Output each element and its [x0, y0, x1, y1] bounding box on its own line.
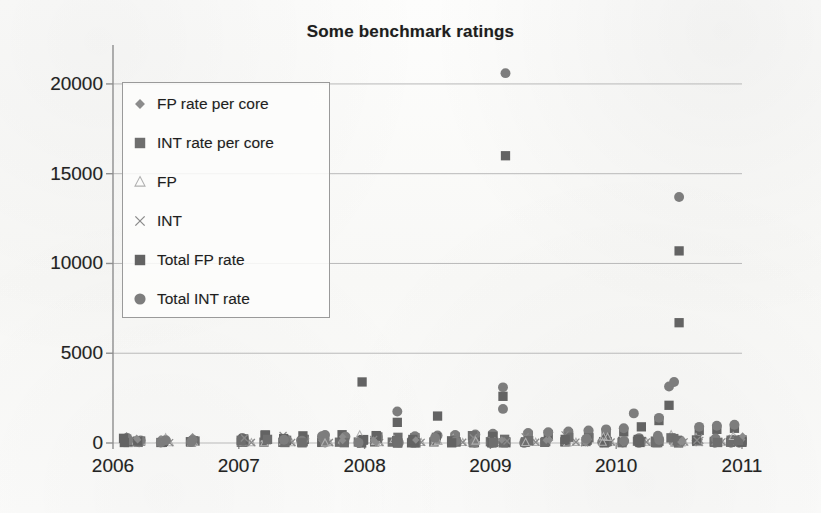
data-point [619, 436, 629, 446]
data-point [653, 431, 663, 441]
data-point [501, 151, 510, 160]
legend-item-total-fp-rate[interactable]: Total FP rate [123, 240, 329, 279]
data-point [713, 438, 722, 447]
data-point [694, 422, 704, 432]
data-point [392, 407, 402, 417]
scatter-chart: Some benchmark ratings 05000100001500020… [0, 0, 821, 513]
data-point [393, 418, 402, 427]
data-point [712, 421, 722, 431]
data-point [501, 68, 511, 78]
data-point [498, 392, 507, 401]
data-point [279, 435, 289, 445]
data-point [393, 438, 402, 447]
x-axis-label: 2010 [576, 455, 656, 477]
data-point [561, 435, 570, 444]
data-point [186, 437, 196, 447]
data-point [629, 408, 639, 418]
data-point [135, 99, 145, 109]
legend-item-total-int-rate[interactable]: Total INT rate [123, 279, 329, 318]
data-point [236, 436, 245, 445]
data-point [135, 216, 144, 225]
data-point [543, 427, 553, 437]
y-axis-label: 0 [17, 432, 103, 454]
data-point [729, 420, 739, 430]
chart-title: Some benchmark ratings [0, 22, 821, 42]
data-point [161, 435, 171, 445]
circle-marker-icon [123, 292, 157, 306]
y-axis-label: 5000 [17, 342, 103, 364]
legend-item-fp-rate-per-core[interactable]: FP rate per core [123, 84, 329, 123]
legend-item-fp[interactable]: FP [123, 162, 329, 201]
square-marker-icon [123, 253, 157, 267]
legend-item-label: Total FP rate [157, 251, 245, 269]
x-axis-label: 2006 [73, 455, 153, 477]
y-axis-label: 15000 [17, 163, 103, 185]
data-point [354, 438, 364, 448]
legend-item-label: INT rate per core [157, 134, 274, 152]
legend-item-label: INT [157, 212, 182, 230]
data-point [669, 377, 679, 387]
square-marker-icon [123, 136, 157, 150]
data-point [433, 411, 442, 420]
data-point [135, 176, 145, 186]
data-point [619, 423, 629, 433]
data-point [447, 438, 456, 447]
legend-item-label: FP [157, 173, 177, 191]
data-point [664, 401, 673, 410]
data-point [637, 422, 646, 431]
y-axis-label: 10000 [17, 252, 103, 274]
data-point [674, 192, 684, 202]
triangle-marker-icon [123, 175, 157, 189]
data-point [489, 438, 498, 447]
diamond-marker-icon [123, 97, 157, 111]
data-point [674, 318, 683, 327]
data-point [601, 424, 611, 434]
data-point [135, 137, 145, 147]
x-axis-label: 2007 [199, 455, 279, 477]
data-point [654, 413, 664, 423]
data-point [634, 435, 643, 444]
legend-item-label: FP rate per core [157, 95, 269, 113]
x-marker-icon [123, 214, 157, 228]
legend-item-int[interactable]: INT [123, 201, 329, 240]
data-point [582, 434, 592, 444]
data-point [297, 438, 306, 447]
data-point [134, 293, 145, 304]
chart-legend: FP rate per coreINT rate per coreFPINTTo… [122, 82, 330, 318]
data-point [357, 377, 366, 386]
data-point [674, 246, 683, 255]
legend-item-int-rate-per-core[interactable]: INT rate per core [123, 123, 329, 162]
data-point [498, 404, 508, 414]
x-axis-label: 2009 [450, 455, 530, 477]
data-point [120, 438, 129, 447]
data-point [263, 435, 272, 444]
x-axis-label: 2011 [702, 455, 782, 477]
data-point [135, 254, 145, 264]
data-point [430, 433, 440, 443]
y-axis-label: 20000 [17, 73, 103, 95]
data-point [498, 382, 508, 392]
legend-item-label: Total INT rate [157, 290, 250, 308]
x-axis-label: 2008 [325, 455, 405, 477]
